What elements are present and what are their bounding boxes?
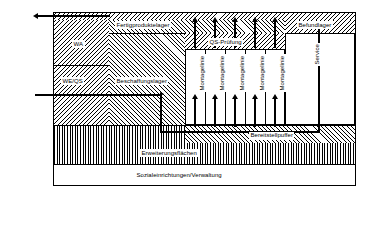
- flow-out-3-arrowhead-icon: [232, 17, 238, 22]
- flow-out-2-arrowhead-icon: [212, 17, 218, 22]
- legend: Maßstab 1:600 Fertigungsfläche Lagerfläc…: [0, 188, 369, 227]
- flow-feed-5-arrowhead-icon: [272, 94, 278, 99]
- label-befundlager: Befundlager: [297, 21, 333, 29]
- flow-along-buffer: [160, 131, 320, 133]
- label-montagelinie-1: Montagelinie: [198, 54, 206, 92]
- flow-feed-3-arrowhead-icon: [232, 94, 238, 99]
- label-service: Service: [313, 43, 321, 66]
- label-beschaffungslager: Beschaffungslager: [115, 77, 168, 85]
- flow-line-feed-5: [274, 99, 276, 127]
- label-erweiterungsflaechen: Erweiterungsflächen: [140, 149, 198, 157]
- flow-line-feed-2: [214, 99, 216, 127]
- label-montagelinie-2: Montagelinie: [218, 54, 226, 92]
- flow-feed-1-arrowhead-icon: [192, 94, 198, 99]
- flow-out-1-arrowhead-icon: [192, 17, 198, 22]
- label-bereitstellpuffer: Bereitstellpuffer: [249, 132, 294, 140]
- label-montagelinie-4: Montagelinie: [258, 54, 266, 92]
- flow-out-5-arrowhead-icon: [272, 17, 278, 22]
- label-qs-pruefung: QS-Prüfung: [208, 38, 243, 46]
- flow-line-out-5: [274, 22, 276, 48]
- label-wa: WA: [72, 40, 85, 48]
- flow-line-feed-4: [254, 99, 256, 127]
- flow-line-feed-3: [234, 99, 236, 127]
- label-montagelinie-5: Montagelinie: [278, 54, 286, 92]
- label-we-qs: WE/QS: [61, 77, 84, 85]
- factory-layout-figure: Fertigproduktelager WA WE/QS Beschaffung…: [0, 0, 369, 227]
- flow-line-feed-1: [194, 99, 196, 127]
- flow-outbound-arrowhead-icon: [33, 13, 38, 19]
- label-montagelinie-3: Montagelinie: [238, 54, 246, 92]
- flow-feed-4-arrowhead-icon: [252, 94, 258, 99]
- label-fertigproduktelager: Fertigproduktelager: [115, 21, 171, 29]
- divider-erweiterung-top: [54, 125, 355, 126]
- flow-line-out-1: [194, 22, 196, 48]
- flow-to-buffer-vertical: [160, 94, 162, 133]
- flow-out-4-arrowhead-icon: [252, 17, 258, 22]
- divider-wa-weqs: [54, 65, 109, 66]
- flow-inbound-line: [35, 94, 162, 96]
- flow-outbound-line: [38, 15, 110, 17]
- flow-feed-2-arrowhead-icon: [212, 94, 218, 99]
- flow-line-out-4: [254, 22, 256, 48]
- label-sozialeinrichtungen: Sozialeinrichtungen/Verwaltung: [135, 171, 223, 179]
